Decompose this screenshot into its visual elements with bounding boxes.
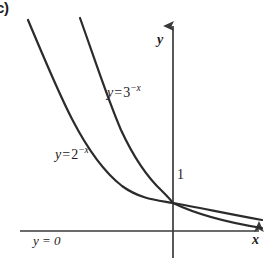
y-intercept-tick-label: 1: [177, 168, 184, 182]
x-axis-label: x: [252, 233, 259, 247]
curve-2-to-the-minus-x: [28, 20, 262, 220]
part-label: c): [0, 0, 9, 15]
curve-label-2-equals: =: [61, 147, 71, 162]
plot-canvas: [0, 0, 267, 263]
asymptote-label-y-equals-0: y = 0: [33, 234, 61, 247]
curve-3-to-the-minus-x: [80, 18, 262, 228]
curve-label-3-exponent: −x: [130, 83, 141, 93]
curve-label-2-exponent: −x: [78, 145, 89, 155]
curve-label-3-equals: =: [113, 85, 123, 100]
curve-label-3-to-the-minus-x: y=3−x: [107, 86, 141, 100]
exponential-decay-figure: c) y=3−x y=2−x y = 0 y x 1: [0, 0, 267, 263]
y-axis-label: y: [157, 33, 163, 47]
curve-label-2-to-the-minus-x: y=2−x: [55, 148, 89, 162]
